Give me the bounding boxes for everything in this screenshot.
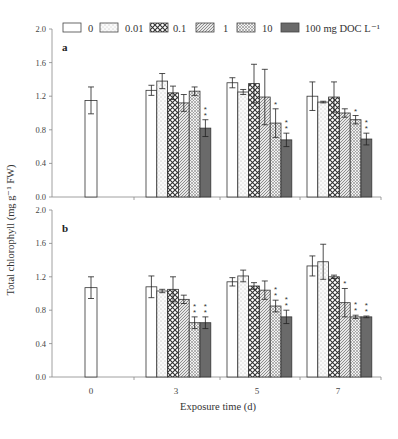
legend-item: 1 (196, 23, 228, 34)
bar (178, 95, 189, 197)
bar-rect (157, 291, 168, 377)
panel-label: b (62, 222, 68, 234)
bar (318, 244, 329, 377)
significance-marker: * (285, 295, 288, 304)
legend-swatch (281, 23, 299, 32)
chart-panels: 0.00.40.81.21.62.0a********0.00.40.81.21… (35, 24, 381, 382)
legend-label: 0.1 (173, 23, 186, 34)
legend-item: 0.1 (150, 23, 186, 34)
bar-rect (168, 289, 179, 377)
bar-rect (307, 266, 318, 377)
bar: ** (281, 295, 292, 377)
bar: ** (200, 302, 211, 377)
legend-label: 10 (262, 23, 273, 34)
bar-rect (189, 91, 200, 197)
bar (307, 82, 318, 197)
bar-rect (200, 128, 211, 197)
bar (249, 64, 260, 197)
bar: ** (189, 302, 200, 377)
legend-item: 0.01 (100, 23, 143, 34)
bar: * (339, 279, 350, 377)
x-tick-label: 3 (174, 386, 179, 396)
bar (259, 69, 270, 197)
bar-rect (238, 92, 249, 197)
x-axis: 0357 (89, 386, 341, 396)
legend-swatch (237, 23, 255, 32)
bar-rect (227, 282, 238, 377)
bar-rect (85, 100, 97, 197)
bar (339, 109, 350, 197)
significance-marker: * (365, 118, 368, 127)
bar-rect (281, 317, 292, 377)
bar (146, 85, 157, 197)
panel-a: 0.00.40.81.21.62.0a******** (35, 24, 381, 202)
bar-rect (259, 290, 270, 377)
y-tick-label: 1.6 (35, 58, 46, 68)
significance-marker: * (354, 300, 357, 309)
legend-swatch (196, 23, 214, 32)
legend-item: 10 (237, 23, 273, 34)
bar-rect (85, 288, 97, 377)
y-tick-label: 2.0 (35, 24, 46, 34)
bar-rect (339, 113, 350, 197)
significance-marker: * (365, 301, 368, 310)
y-tick-label: 0.8 (35, 305, 46, 315)
bar (238, 89, 249, 197)
legend-swatch (63, 23, 81, 32)
bar (168, 86, 179, 197)
y-axis-title: Total chlorophyll (mg g⁻¹ FW) (5, 164, 17, 295)
x-tick-label: 5 (255, 386, 260, 396)
bar (189, 87, 200, 197)
bar: ** (361, 301, 372, 377)
legend-label: 0.01 (125, 23, 143, 34)
y-tick-label: 0.8 (35, 125, 46, 135)
bar-rect (350, 120, 361, 197)
bar-rect (200, 323, 211, 377)
bar-rect (281, 140, 292, 197)
y-tick-label: 2.0 (35, 205, 46, 215)
bar (329, 82, 340, 197)
significance-marker: * (274, 285, 277, 294)
bar-rect (361, 317, 372, 377)
legend-label: 100 mg DOC L⁻¹ (305, 23, 380, 34)
bar-rect (318, 102, 329, 197)
bar-rect (157, 81, 168, 197)
bar: * (270, 100, 281, 197)
bar-rect (168, 93, 179, 197)
significance-marker: * (193, 302, 196, 311)
bar (85, 277, 97, 377)
bar-rect (227, 83, 238, 197)
bar (238, 270, 249, 377)
bar (329, 275, 340, 377)
bar (178, 295, 189, 377)
bar-rect (189, 323, 200, 377)
bar: ** (270, 285, 281, 377)
bar-rect (238, 276, 249, 377)
legend-label: 0 (88, 23, 93, 34)
significance-marker: * (343, 279, 346, 288)
bar-rect (178, 299, 189, 377)
bar: ** (200, 105, 211, 197)
significance-marker: * (354, 107, 357, 116)
bar-rect (249, 286, 260, 377)
bar: ** (350, 300, 361, 377)
legend-swatch (100, 23, 118, 32)
significance-marker: * (204, 105, 207, 114)
panel-label: a (62, 41, 68, 53)
x-axis-title: Exposure time (d) (180, 401, 256, 413)
chlorophyll-bar-chart: 00.010.1110100 mg DOC L⁻¹ 0.00.40.81.21.… (0, 0, 398, 439)
x-tick-label: 0 (89, 386, 94, 396)
bar (157, 289, 168, 377)
bar (85, 87, 97, 197)
bar-rect (146, 90, 157, 197)
y-tick-label: 0.0 (35, 192, 46, 202)
bar (307, 256, 318, 377)
bar (168, 277, 179, 377)
bar-rect (361, 139, 372, 197)
y-tick-label: 1.2 (35, 272, 46, 282)
bar (249, 283, 260, 377)
x-tick-label: 7 (336, 386, 341, 396)
legend-swatch (150, 23, 168, 32)
bar (227, 78, 238, 197)
bar: ** (361, 118, 372, 197)
